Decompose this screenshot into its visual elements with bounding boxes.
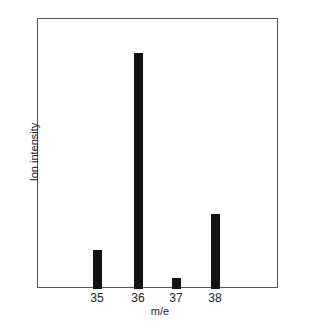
- x-tick-label-36: 36: [126, 291, 150, 305]
- bar-35: [93, 250, 102, 289]
- x-axis-label: m/e: [140, 305, 180, 317]
- bar-36: [134, 53, 143, 289]
- plot-frame: [37, 18, 278, 288]
- x-tick-label-35: 35: [85, 291, 109, 305]
- bar-38: [211, 214, 220, 289]
- y-axis-label: Ion intensity: [28, 92, 40, 212]
- x-tick-label-38: 38: [203, 291, 227, 305]
- x-tick-label-37: 37: [164, 291, 188, 305]
- bar-37: [172, 278, 181, 289]
